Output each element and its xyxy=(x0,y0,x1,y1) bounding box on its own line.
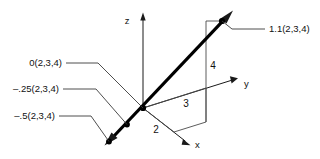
callout-label-t-neg-5: –.5(2,3,4) xyxy=(14,110,55,121)
callout-label-t-neg-25: –.25(2,3,4) xyxy=(13,83,59,94)
callout-label-t-1-1: 1.1(2,3,4) xyxy=(269,23,310,34)
z-axis-arrowhead xyxy=(140,13,145,21)
y-component-edge-lower xyxy=(174,122,206,132)
leader-line-t-neg-5 xyxy=(59,116,109,142)
leader-line-t-0 xyxy=(66,63,143,108)
y-axis-arrowhead xyxy=(230,76,238,83)
component-projection-box xyxy=(143,21,222,132)
y-axis-label: y xyxy=(244,78,249,89)
z-component-label: 4 xyxy=(210,60,216,71)
y-component-label: 3 xyxy=(183,98,189,109)
x-component-label: 2 xyxy=(153,124,159,135)
leader-line-t-1-1 xyxy=(222,21,265,29)
x-axis-arrowhead xyxy=(182,139,191,145)
z-axis xyxy=(140,13,145,109)
vector-line-segment xyxy=(114,17,227,136)
vector-line-diagram: z y x 2 3 4 1.1(2,3,4) 0(2,3,4) –.25(2,3… xyxy=(0,0,320,159)
y-component-edge xyxy=(143,88,206,108)
callout-label-t-0: 0(2,3,4) xyxy=(29,57,62,68)
leader-line-t-neg-25 xyxy=(63,89,127,125)
parametric-line xyxy=(105,11,234,146)
z-axis-label: z xyxy=(125,15,130,26)
x-axis-label: x xyxy=(195,139,200,150)
